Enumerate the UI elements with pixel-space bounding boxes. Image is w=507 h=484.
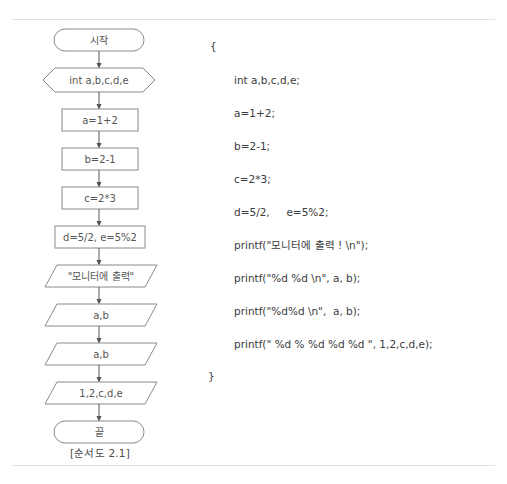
flow-node-out-ab-2: a,b bbox=[45, 343, 157, 365]
code-line-assign-a: a=1+2; bbox=[205, 97, 505, 130]
code-line-printf-ab-2: printf("%d%d \n", a, b); bbox=[205, 295, 505, 328]
flow-node-start-label: 시작 bbox=[90, 35, 108, 46]
code-line-assign-de: d=5/2, e=5%2; bbox=[205, 196, 505, 229]
flow-node-stmt-b-label: b=2-1 bbox=[84, 154, 115, 165]
flow-node-out-all-label: 1,2,c,d,e bbox=[79, 388, 122, 399]
flow-node-stmt-c-label: c=2*3 bbox=[84, 193, 116, 204]
flow-node-out-ab-1: a,b bbox=[45, 304, 157, 326]
code-line-assign-b: b=2-1; bbox=[205, 130, 505, 163]
flow-node-stmt-a-label: a=1+2 bbox=[82, 115, 118, 126]
flow-node-start: 시작 bbox=[54, 29, 144, 51]
flow-node-stmt-b: b=2-1 bbox=[62, 148, 138, 170]
code-line-printf-all: printf(" %d % %d %d %d ", 1,2,c,d,e); bbox=[205, 328, 505, 361]
code-line-printf-message: printf("모니터에 출력 ! \n"); bbox=[205, 229, 505, 262]
flow-node-out-ab-2-label: a,b bbox=[93, 349, 109, 360]
flow-node-out-ab-1-label: a,b bbox=[93, 310, 109, 321]
flow-node-out-msg: "모니터에 출력" bbox=[45, 265, 157, 287]
flow-node-declare: int a,b,c,d,e bbox=[43, 68, 155, 92]
code-line-declare: int a,b,c,d,e; bbox=[205, 64, 505, 97]
flow-node-stmt-a: a=1+2 bbox=[62, 109, 138, 131]
flow-node-out-msg-label: "모니터에 출력" bbox=[68, 271, 134, 282]
code-line-open-brace: { bbox=[205, 28, 505, 64]
code-line-assign-c: c=2*3; bbox=[205, 163, 505, 196]
code-line-printf-ab-1: printf("%d %d \n", a, b); bbox=[205, 262, 505, 295]
flow-node-out-all: 1,2,c,d,e bbox=[45, 382, 157, 404]
flow-node-stmt-de: d=5/2, e=5%2 bbox=[55, 226, 145, 248]
flow-node-declare-label: int a,b,c,d,e bbox=[69, 75, 128, 86]
flow-node-end: 끝 bbox=[54, 421, 144, 443]
code-listing: { int a,b,c,d,e; a=1+2; b=2-1; c=2*3; d=… bbox=[205, 28, 505, 391]
flowchart-diagram: 시작 int a,b,c,d,e a=1+2 b=2 bbox=[0, 0, 200, 484]
flowchart-caption: [순서도 2.1] bbox=[0, 445, 200, 460]
code-line-close-brace: } bbox=[205, 361, 505, 391]
flow-node-end-label: 끝 bbox=[95, 427, 104, 438]
page-canvas: 시작 int a,b,c,d,e a=1+2 b=2 bbox=[0, 0, 507, 484]
flow-node-stmt-de-label: d=5/2, e=5%2 bbox=[63, 232, 137, 243]
flow-node-stmt-c: c=2*3 bbox=[62, 187, 138, 209]
